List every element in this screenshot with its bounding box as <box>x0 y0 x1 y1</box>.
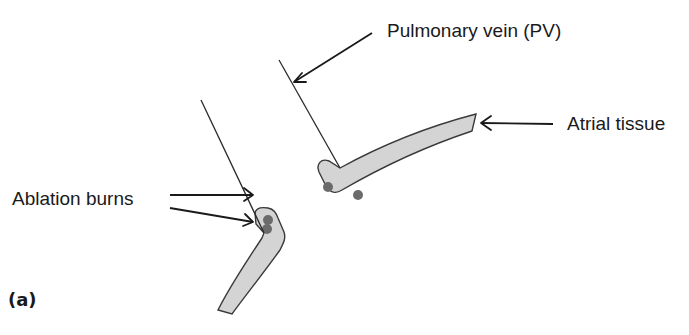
ablation-burn-dot <box>263 215 273 225</box>
pulmonary-vein-arrow <box>294 33 372 82</box>
ablation-burns-arrows <box>170 188 253 226</box>
ablation-burn-dot <box>323 182 333 192</box>
upper-tissue-segment <box>279 60 476 200</box>
atrial-tissue-wall <box>318 114 476 192</box>
pulmonary-vein-label: Pulmonary vein (PV) <box>387 20 561 41</box>
lower-tissue-segment <box>201 100 285 314</box>
ablation-burns-label: Ablation burns <box>12 188 133 209</box>
pulmonary-vein-line <box>279 60 340 168</box>
ablation-diagram: Pulmonary vein (PV) Atrial tissue Ablati… <box>0 0 689 335</box>
atrial-tissue-arrow <box>481 116 553 130</box>
ablation-burn-dot <box>353 190 363 200</box>
atrial-tissue-label: Atrial tissue <box>567 113 665 134</box>
catheter-line <box>201 100 264 233</box>
panel-label: (a) <box>8 289 37 310</box>
